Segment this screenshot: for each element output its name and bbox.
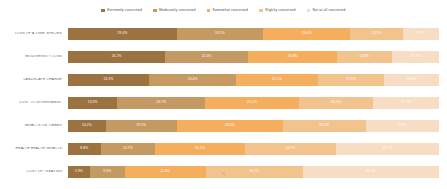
stacked-bar: 29.4%23.1%23.6%14.2%9.7% <box>68 28 439 40</box>
bar-segment[interactable]: 13.3% <box>68 97 117 109</box>
legend-item[interactable]: Somewhat concerned <box>207 9 249 13</box>
chart-row: BIODIVERSITY LOSS26.2%22.4%23.8%14.9%12.… <box>0 45 447 68</box>
bar-segment[interactable]: 22.1% <box>236 74 318 86</box>
category-label: COST TO GOVERNMENT <box>0 101 68 105</box>
bar-segment[interactable]: 21.9% <box>68 74 149 86</box>
legend-item-label: Moderately concerned <box>159 9 196 12</box>
bar-segment[interactable]: 17.7% <box>373 97 439 109</box>
stacked-bar: 26.2%22.4%23.8%14.9%12.7% <box>68 51 439 63</box>
bar-segment[interactable]: 9.7% <box>403 28 439 40</box>
legend-item[interactable]: Moderately concerned <box>153 9 196 13</box>
bar-segment[interactable]: 12.7% <box>392 51 439 63</box>
category-label: HEALTH HEALTH IMPACTS <box>0 147 68 151</box>
bar-segment[interactable]: 20.1% <box>299 97 374 109</box>
chart-row: HEALTH HEALTH IMPACTS8.8%14.7%24.1%24.7%… <box>0 137 447 160</box>
category-label: LANDSCAPE CHANGE <box>0 78 68 82</box>
bar-segment[interactable]: 19.1% <box>106 120 177 132</box>
bar-segment[interactable]: 14.2% <box>350 28 403 40</box>
stacked-bar: 13.3%23.7%25.2%20.1%17.7% <box>68 97 439 109</box>
bar-segment[interactable]: 28.6% <box>177 120 283 132</box>
bar-segment[interactable]: 10.2% <box>68 120 106 132</box>
category-label: BIODIVERSITY LOSS <box>0 55 68 59</box>
bar-segment[interactable]: 17.8% <box>318 74 384 86</box>
bar-segment[interactable]: 25.2% <box>205 97 298 109</box>
legend-swatch-icon <box>259 9 263 13</box>
bar-segment[interactable]: 8.8% <box>68 143 101 155</box>
bar-segment[interactable]: 26.2% <box>68 51 165 63</box>
legend-item-label: Slightly concerned <box>265 9 295 12</box>
category-label: LOSS OF A TREE SPECIES <box>0 32 68 36</box>
footer-note: % <box>0 172 447 176</box>
bar-segment[interactable]: 27.7% <box>336 143 439 155</box>
bar-segment[interactable]: 22.4% <box>165 51 248 63</box>
legend-swatch-icon <box>101 9 105 13</box>
legend-swatch-icon <box>307 9 311 13</box>
stacked-bar-chart: Extremely concernedModerately concernedS… <box>0 0 447 189</box>
bar-segment[interactable]: 23.7% <box>117 97 205 109</box>
bar-segment[interactable]: 22.3% <box>283 120 366 132</box>
legend-item[interactable]: Slightly concerned <box>259 9 295 13</box>
bar-segment[interactable]: 14.8% <box>384 74 439 86</box>
legend-swatch-icon <box>207 9 211 13</box>
legend-item-label: Somewhat concerned <box>213 9 249 12</box>
stacked-bar: 8.8%14.7%24.1%24.7%27.7% <box>68 143 439 155</box>
chart-legend: Extremely concernedModerately concernedS… <box>0 0 447 12</box>
chart-row: COST TO GOVERNMENT13.3%23.7%25.2%20.1%17… <box>0 91 447 114</box>
chart-row: IMPACTS ON TIMBER10.2%19.1%28.6%22.3%19.… <box>0 114 447 137</box>
bar-segment[interactable]: 23.6% <box>263 28 351 40</box>
bar-segment[interactable]: 29.4% <box>68 28 177 40</box>
bar-segment[interactable]: 14.7% <box>101 143 156 155</box>
legend-swatch-icon <box>153 9 157 13</box>
stacked-bar: 10.2%19.1%28.6%22.3%19.8% <box>68 120 439 132</box>
legend-item-label: Extremely concerned <box>107 9 142 12</box>
chart-row: LANDSCAPE CHANGE21.9%23.4%22.1%17.8%14.8… <box>0 68 447 91</box>
bar-segment[interactable]: 24.1% <box>155 143 244 155</box>
bar-segment[interactable]: 19.8% <box>366 120 439 132</box>
bar-segment[interactable]: 23.8% <box>248 51 336 63</box>
chart-plot-area: LOSS OF A TREE SPECIES29.4%23.1%23.6%14.… <box>0 22 447 170</box>
bar-segment[interactable]: 14.9% <box>337 51 392 63</box>
bar-segment[interactable]: 23.4% <box>149 74 236 86</box>
category-label: IMPACTS ON TIMBER <box>0 124 68 128</box>
chart-row: LOSS OF A TREE SPECIES29.4%23.1%23.6%14.… <box>0 22 447 45</box>
legend-item[interactable]: Extremely concerned <box>101 9 142 13</box>
legend-item-label: Not at all concerned <box>313 9 346 12</box>
stacked-bar: 21.9%23.4%22.1%17.8%14.8% <box>68 74 439 86</box>
bar-segment[interactable]: 24.7% <box>245 143 337 155</box>
legend-item[interactable]: Not at all concerned <box>307 9 346 13</box>
bar-segment[interactable]: 23.1% <box>177 28 263 40</box>
